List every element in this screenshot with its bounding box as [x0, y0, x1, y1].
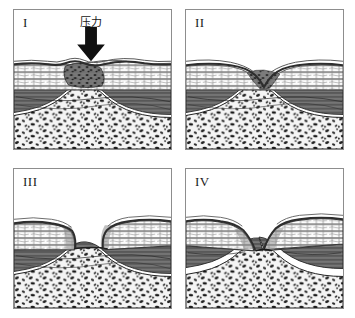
pressure-label: 压力	[80, 17, 102, 28]
panel-label-3: III	[23, 175, 38, 188]
panel-4-illustration	[186, 169, 343, 308]
damaged-tissue	[64, 63, 104, 88]
panel-label-2: II	[195, 16, 205, 29]
panel-label-4: IV	[195, 175, 210, 188]
pressure-ulcer-figure: I 压力	[0, 0, 355, 318]
panel-stage-3: III	[13, 168, 172, 309]
pressure-arrow-icon	[77, 27, 105, 62]
panel-1-illustration	[14, 10, 171, 149]
panel-3-illustration	[14, 169, 171, 308]
panel-stage-4: IV	[185, 168, 344, 309]
panel-label-1: I	[23, 16, 28, 29]
panel-stage-1: I 压力	[13, 9, 172, 150]
panel-stage-2: II	[185, 9, 344, 150]
panel-2-illustration	[186, 10, 343, 149]
